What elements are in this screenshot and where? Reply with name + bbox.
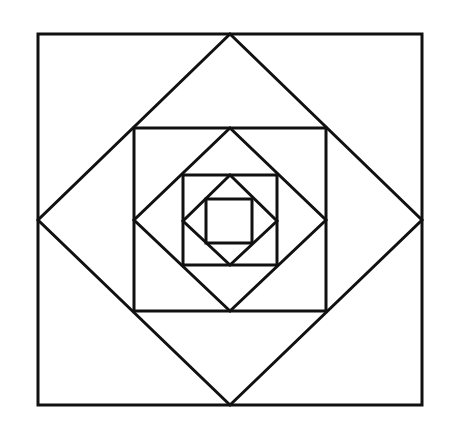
- second-square: [134, 128, 326, 311]
- second-diamond: [134, 128, 326, 311]
- third-diamond: [183, 175, 277, 265]
- third-square: [183, 175, 277, 265]
- outer-square: [38, 34, 422, 405]
- outer-diamond: [38, 34, 422, 405]
- inner-square: [206, 199, 252, 243]
- nested-squares-diagram: [0, 0, 453, 422]
